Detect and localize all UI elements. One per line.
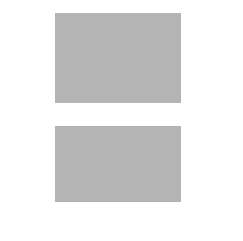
- bottom-panel: [55, 126, 181, 202]
- colorbar: [226, 43, 232, 178]
- top-heatmap: [55, 13, 181, 103]
- bottom-heatmap: [55, 126, 181, 202]
- top-panel: [55, 13, 181, 103]
